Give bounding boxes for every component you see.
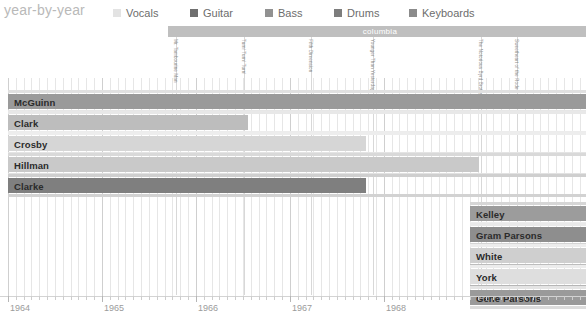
member-row[interactable]: White xyxy=(0,248,586,263)
member-bar[interactable] xyxy=(8,115,248,130)
legend-swatch-icon xyxy=(113,9,121,17)
axis-tick-minor xyxy=(580,296,581,300)
axis-tick-minor xyxy=(71,296,72,300)
instrument-strip xyxy=(8,153,586,156)
label-band-text: columbia xyxy=(340,26,420,37)
axis-tick-minor xyxy=(345,296,346,300)
axis-tick-minor xyxy=(509,296,510,300)
legend-label: Drums xyxy=(347,7,379,19)
axis-tick-minor xyxy=(462,296,463,300)
axis-tick-minor xyxy=(540,296,541,300)
legend-item-keyboards[interactable]: Keyboards xyxy=(409,3,475,17)
axis-tick-minor xyxy=(533,296,534,300)
legend-swatch-icon xyxy=(334,9,342,17)
member-row[interactable]: Gram Parsons xyxy=(0,227,586,242)
member-name: Clark xyxy=(14,117,38,128)
legend-swatch-icon xyxy=(265,9,273,17)
axis-tick-minor xyxy=(313,296,314,300)
axis-tick-minor xyxy=(478,296,479,300)
axis-tick-minor xyxy=(392,296,393,300)
axis-tick-minor xyxy=(306,296,307,300)
axis-tick-minor xyxy=(157,296,158,300)
axis-tick-minor xyxy=(329,296,330,300)
axis-tick-minor xyxy=(219,296,220,300)
axis-tick-minor xyxy=(353,296,354,300)
instrument-strip xyxy=(8,90,586,93)
member-name: Hillman xyxy=(14,159,49,170)
member-row[interactable]: Clarke xyxy=(0,178,586,193)
member-name: Clarke xyxy=(14,180,44,191)
member-name: Crosby xyxy=(14,138,47,149)
legend-item-drums[interactable]: Drums xyxy=(334,3,379,17)
instrument-strip xyxy=(470,244,586,247)
legend-item-guitar[interactable]: Guitar xyxy=(190,3,233,17)
legend-label: Vocals xyxy=(126,7,158,19)
axis-tick-minor xyxy=(517,296,518,300)
member-row[interactable]: Crosby xyxy=(0,136,586,151)
axis-tick-minor xyxy=(548,296,549,300)
axis-tick-minor xyxy=(78,296,79,300)
member-bar[interactable] xyxy=(8,136,366,151)
axis-tick-minor xyxy=(172,296,173,300)
axis-tick-minor xyxy=(337,296,338,300)
chart-root: year-by-year VocalsGuitarBassDrumsKeyboa… xyxy=(0,0,586,324)
axis-tick-minor xyxy=(501,296,502,300)
album-title: Fifth Dimension xyxy=(308,39,313,72)
album-title: Sweetheart of the Rodeo xyxy=(514,39,519,92)
legend-swatch-icon xyxy=(190,9,198,17)
axis-tick-minor xyxy=(446,296,447,300)
axis-tick-minor xyxy=(407,296,408,300)
axis-tick-minor xyxy=(282,296,283,300)
legend-label: Keyboards xyxy=(422,7,475,19)
instrument-strip xyxy=(8,194,586,197)
axis-tick-major xyxy=(102,296,103,302)
member-row[interactable]: Hillman xyxy=(0,157,586,172)
instrument-strip xyxy=(8,111,586,114)
axis-tick-minor xyxy=(439,296,440,300)
axis-year-label: 1966 xyxy=(198,303,218,313)
axis-tick-minor xyxy=(204,296,205,300)
instrument-strip xyxy=(470,202,586,205)
member-row[interactable]: McGuinn xyxy=(0,94,586,109)
label-band: columbia xyxy=(168,26,586,37)
instrument-strip xyxy=(470,286,586,289)
axis-tick-minor xyxy=(376,296,377,300)
axis-tick-minor xyxy=(55,296,56,300)
member-bar[interactable] xyxy=(8,94,586,109)
member-name: McGuinn xyxy=(14,96,55,107)
axis-tick-minor xyxy=(133,296,134,300)
axis-year-label: 1968 xyxy=(386,303,406,313)
member-name: Gram Parsons xyxy=(476,229,542,240)
legend-item-bass[interactable]: Bass xyxy=(265,3,302,17)
axis-tick-minor xyxy=(94,296,95,300)
axis-tick-major xyxy=(384,296,385,302)
page-title: year-by-year xyxy=(4,2,85,18)
axis-tick-minor xyxy=(235,296,236,300)
axis-tick-minor xyxy=(572,296,573,300)
axis-tick-minor xyxy=(243,296,244,300)
axis-tick-minor xyxy=(564,296,565,300)
axis-tick-minor xyxy=(399,296,400,300)
axis-tick-minor xyxy=(259,296,260,300)
member-row[interactable]: York xyxy=(0,269,586,284)
axis-tick-minor xyxy=(360,296,361,300)
instrument-strip xyxy=(470,265,586,268)
member-bar[interactable] xyxy=(8,157,479,172)
axis-tick-minor xyxy=(24,296,25,300)
axis-tick-major xyxy=(8,296,9,302)
legend-item-vocals[interactable]: Vocals xyxy=(113,3,158,17)
axis-tick-minor xyxy=(298,296,299,300)
legend-label: Bass xyxy=(278,7,302,19)
member-row[interactable]: Kelley xyxy=(0,206,586,221)
axis-tick-minor xyxy=(431,296,432,300)
axis-year-label: 1965 xyxy=(104,303,124,313)
legend-label: Guitar xyxy=(203,7,233,19)
axis-tick-minor xyxy=(16,296,17,300)
axis-tick-minor xyxy=(423,296,424,300)
axis-tick-minor xyxy=(118,296,119,300)
axis-tick-minor xyxy=(266,296,267,300)
axis-tick-minor xyxy=(212,296,213,300)
axis-tick-minor xyxy=(454,296,455,300)
member-bar[interactable] xyxy=(8,178,366,193)
member-row[interactable]: Clark xyxy=(0,115,586,130)
